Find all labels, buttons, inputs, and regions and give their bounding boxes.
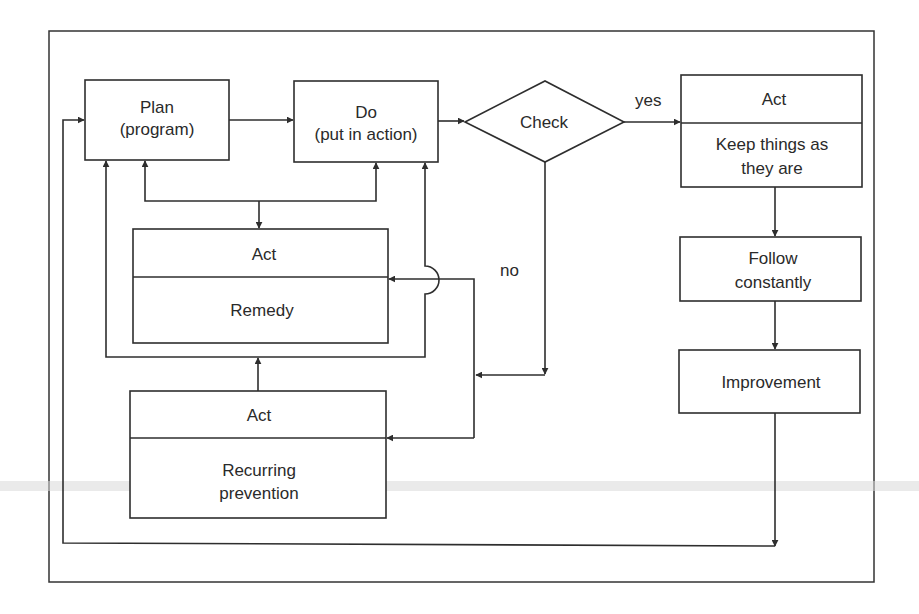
act-keep-line1: Keep things as <box>716 135 828 154</box>
do-node: Do (put in action) <box>294 81 438 162</box>
act-remedy-body: Remedy <box>230 301 294 320</box>
check-decision: Check <box>465 81 624 162</box>
do-title: Do <box>355 103 377 122</box>
act-remedy-node: Act Remedy <box>133 229 388 343</box>
yes-label: yes <box>635 91 661 110</box>
act-keep-line2: they are <box>741 159 802 178</box>
follow-node: Follow constantly <box>680 237 861 301</box>
edge-t-to-do <box>259 163 376 201</box>
improvement-label: Improvement <box>721 373 820 392</box>
check-label: Check <box>520 113 569 132</box>
improvement-node: Improvement <box>679 350 860 413</box>
plan-title: Plan <box>140 98 174 117</box>
edge-bus-to-remedy <box>389 279 474 438</box>
no-label: no <box>500 261 519 280</box>
act-keep-header: Act <box>762 90 787 109</box>
act-recurring-node: Act Recurring prevention <box>130 391 386 518</box>
act-keep-node: Act Keep things as they are <box>681 75 862 187</box>
act-recurring-header: Act <box>247 406 272 425</box>
follow-line2: constantly <box>735 273 812 292</box>
act-remedy-header: Act <box>252 245 277 264</box>
act-recurring-line2: prevention <box>219 484 298 503</box>
do-subtitle: (put in action) <box>315 125 418 144</box>
plan-node: Plan (program) <box>85 80 229 160</box>
act-recurring-line1: Recurring <box>222 461 296 480</box>
plan-subtitle: (program) <box>120 120 195 139</box>
follow-line1: Follow <box>748 249 798 268</box>
pdca-diagram: Plan (program) Do (put in action) Check … <box>0 0 919 614</box>
edge-t-to-plan <box>145 161 259 201</box>
